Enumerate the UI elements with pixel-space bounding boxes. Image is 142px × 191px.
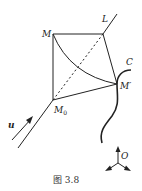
diagram: M L C M′ M0 u O 图 3.8	[0, 0, 142, 191]
label-u: u	[8, 120, 15, 130]
label-L: L	[101, 14, 108, 24]
u-arrow-shaft	[12, 119, 31, 140]
edge-corner-Mprime	[103, 34, 117, 84]
line-through-M0	[18, 100, 53, 148]
figure-caption: 图 3.8	[53, 175, 79, 185]
label-O: O	[121, 151, 129, 161]
label-C: C	[126, 57, 133, 67]
label-M-prime: M′	[119, 81, 131, 91]
arc-M-Mprime	[53, 34, 117, 84]
label-M: M	[41, 29, 52, 39]
edge-M0-Mprime	[53, 84, 117, 100]
label-M0: M0	[53, 105, 67, 116]
